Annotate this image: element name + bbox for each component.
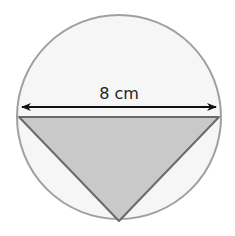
diameter-label: 8 cm <box>99 84 139 103</box>
circle-triangle-diagram: 8 cm <box>0 0 235 236</box>
